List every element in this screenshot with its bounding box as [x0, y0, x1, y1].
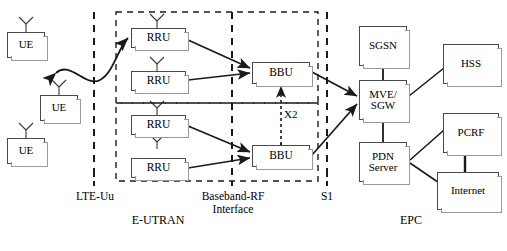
antenna-ue-3	[19, 123, 33, 138]
link-ue-rru-radio	[56, 38, 128, 81]
node-rru-4-label: RRU	[147, 162, 171, 174]
link-rru2-bbu1	[188, 73, 250, 80]
link-rru1-bbu1	[188, 40, 250, 68]
node-ue-1-label: UE	[19, 39, 34, 50]
node-pcrf[interactable]: PCRF	[443, 113, 499, 153]
node-ue-2[interactable]: UE	[40, 95, 78, 121]
node-rru-2-label: RRU	[147, 75, 171, 87]
node-bbu-2[interactable]: BBU	[252, 145, 310, 167]
node-ue-3[interactable]: UE	[7, 138, 45, 164]
label-baseband-rf-line2: Interface	[213, 203, 254, 215]
node-rru-1[interactable]: RRU	[131, 28, 186, 48]
link-rru4-bbu2	[188, 158, 250, 168]
node-pdn-server[interactable]: PDN Server	[359, 142, 407, 182]
antenna-ue-1	[19, 17, 33, 32]
figure-caption	[0, 243, 507, 251]
node-rru-3-label: RRU	[147, 119, 171, 131]
link-bbu2-mve	[312, 104, 357, 155]
label-interface-x2: X2	[284, 108, 306, 120]
label-region-eutran: E-UTRAN	[113, 213, 203, 228]
label-interface-s1: S1	[310, 190, 344, 202]
node-pdn-server-label-line2: Server	[369, 162, 398, 173]
node-pcrf-label: PCRF	[458, 127, 485, 138]
node-mve-sgw[interactable]: MVE/ SGW	[359, 80, 407, 120]
node-ue-1[interactable]: UE	[7, 32, 45, 58]
link-rru3-bbu2	[188, 126, 250, 152]
node-sgsn[interactable]: SGSN	[359, 26, 407, 66]
node-rru-3[interactable]: RRU	[131, 115, 186, 135]
antenna-rru-1	[150, 14, 164, 28]
node-internet-label: Internet	[451, 185, 485, 196]
diagram-canvas: UE UE UE RRU RRU RRU RRU BBU BBU SGSN MV…	[0, 0, 507, 251]
link-pdn-pcrf	[410, 130, 444, 160]
node-rru-4[interactable]: RRU	[131, 158, 186, 178]
node-hss[interactable]: HSS	[443, 44, 499, 84]
link-bbu1-mve	[312, 72, 357, 96]
node-sgsn-label: SGSN	[369, 40, 397, 51]
node-bbu-1-label: BBU	[269, 67, 293, 79]
node-rru-2[interactable]: RRU	[131, 71, 186, 91]
antenna-rru-2	[150, 57, 164, 71]
label-baseband-rf-line1: Baseband-RF	[202, 190, 265, 202]
node-hss-label: HSS	[461, 58, 481, 69]
node-ue-2-label: UE	[52, 102, 67, 113]
node-rru-1-label: RRU	[147, 32, 171, 44]
node-bbu-2-label: BBU	[269, 150, 293, 162]
label-region-epc: EPC	[387, 213, 435, 228]
node-ue-3-label: UE	[19, 145, 34, 156]
node-mve-sgw-label-line2: SGW	[369, 100, 397, 111]
link-mve-hss	[409, 68, 444, 96]
node-internet[interactable]: Internet	[437, 172, 499, 210]
label-interface-baseband-rf: Baseband-RF Interface	[186, 190, 280, 216]
node-bbu-1[interactable]: BBU	[252, 62, 310, 84]
label-interface-lte-uu: LTE-Uu	[64, 190, 126, 202]
antenna-ue-2	[52, 80, 66, 95]
